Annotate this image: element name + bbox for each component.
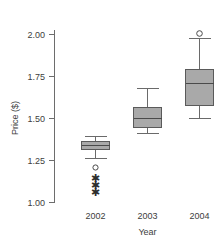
y-tick-label-1-25: 1.25: [27, 156, 45, 166]
outlier-star-2002-3: ✱: [91, 186, 100, 198]
x-tick-label-2002: 2002: [85, 211, 105, 221]
box-2003: [134, 108, 162, 128]
y-axis-title: Price ($): [10, 101, 20, 135]
box-group-2004: [186, 31, 214, 119]
y-tick-label-2-00: 2.00: [27, 30, 45, 40]
outlier-circle-2002-1: [93, 165, 98, 170]
y-tick-label-1-75: 1.75: [27, 72, 45, 82]
x-tick-label-2003: 2003: [137, 211, 157, 221]
boxplot-chart: 2.00 1.75 1.50 1.25 1.00 Price ($) ✱ ✱ ✱: [0, 0, 224, 246]
outlier-circle-2004-1: [197, 31, 203, 37]
y-tick-label-1-50: 1.50: [27, 114, 45, 124]
y-tick-label-1-00: 1.00: [27, 198, 45, 208]
box-group-2003: [134, 89, 162, 134]
box-2004: [186, 70, 214, 106]
box-group-2002: ✱ ✱ ✱: [82, 137, 110, 199]
plot-area: 2.00 1.75 1.50 1.25 1.00 Price ($) ✱ ✱ ✱: [0, 0, 224, 246]
x-tick-label-2004: 2004: [189, 211, 209, 221]
y-axis-ticks: [49, 35, 55, 203]
x-axis-title: Year: [138, 227, 156, 237]
